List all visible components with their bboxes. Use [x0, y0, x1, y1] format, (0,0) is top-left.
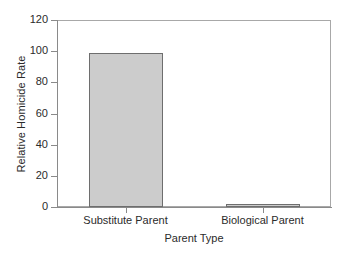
- x-axis-tick-mark: [263, 208, 264, 213]
- y-axis-tick-label: 120: [8, 14, 48, 25]
- y-axis-spine: [57, 20, 58, 208]
- bar: [89, 53, 163, 207]
- y-axis-tick-label: 80: [8, 76, 48, 87]
- y-axis-tick-mark: [51, 51, 57, 52]
- y-axis-tick-label: 40: [8, 139, 48, 150]
- y-axis-tick-label: 20: [8, 170, 48, 181]
- y-axis-tick-label: 100: [8, 45, 48, 56]
- y-axis-tick-mark: [51, 114, 57, 115]
- y-axis-tick-mark: [51, 207, 57, 208]
- y-axis-tick-mark: [51, 176, 57, 177]
- y-axis-tick-label: 60: [8, 108, 48, 119]
- y-axis-tick-label: 0: [8, 201, 48, 212]
- x-axis-tick-label: Biological Parent: [193, 214, 333, 227]
- y-axis-tick-mark: [51, 20, 57, 21]
- x-axis-spine: [57, 207, 332, 208]
- x-axis-tick-label: Substitute Parent: [56, 214, 196, 227]
- x-axis-title: Parent Type: [57, 232, 331, 245]
- y-axis-tick-mark: [51, 145, 57, 146]
- plot-area: [57, 20, 331, 207]
- y-axis-tick-mark: [51, 82, 57, 83]
- bar-chart: Relative Homicide Rate 020406080100120 S…: [0, 0, 349, 258]
- x-axis-tick-mark: [126, 208, 127, 213]
